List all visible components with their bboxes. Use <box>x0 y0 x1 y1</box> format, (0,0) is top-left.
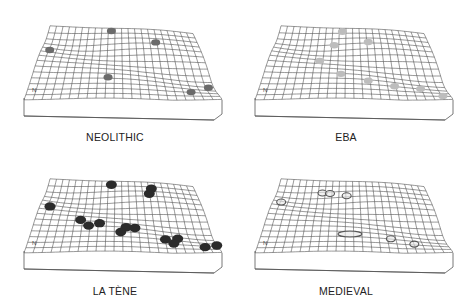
north-arrow-icon: N <box>32 87 36 93</box>
site-marker <box>75 216 86 224</box>
site-marker <box>106 181 117 189</box>
site-marker <box>416 86 425 92</box>
site-marker <box>104 74 113 80</box>
site-marker <box>187 89 196 95</box>
terrain-block-medieval: N <box>231 153 461 283</box>
terrain-block-eba: N <box>231 0 461 130</box>
panel-eba: N EBA <box>231 0 461 153</box>
terrain-block-la-tene: N <box>0 153 230 283</box>
panel-label-neolithic: NEOLITHIC <box>0 131 230 143</box>
site-marker <box>45 47 54 53</box>
site-marker <box>200 243 211 251</box>
terrain-block-neolithic: N <box>0 0 230 130</box>
site-marker <box>315 58 324 64</box>
site-marker <box>168 239 179 247</box>
site-marker <box>211 241 222 249</box>
panel-la-tene: N LA TÈNE <box>0 153 230 306</box>
site-marker <box>336 71 345 77</box>
site-marker <box>364 77 373 83</box>
site-marker <box>342 193 351 199</box>
north-arrow-icon: N <box>263 87 267 93</box>
wireframe-grid <box>255 179 453 253</box>
panel-medieval: N MEDIEVAL <box>231 153 461 306</box>
north-arrow-icon: N <box>263 240 267 246</box>
site-marker <box>338 29 347 35</box>
north-arrow-icon: N <box>32 240 36 246</box>
site-marker <box>338 231 362 237</box>
panel-neolithic: N NEOLITHIC <box>0 0 230 153</box>
site-marker <box>151 39 160 45</box>
site-marker <box>364 39 373 45</box>
wireframe-grid <box>24 179 222 253</box>
site-marker <box>129 224 140 232</box>
site-marker <box>115 228 126 236</box>
panel-label-la-tene: LA TÈNE <box>0 285 230 297</box>
site-marker <box>330 42 339 48</box>
site-marker <box>325 190 334 196</box>
site-marker <box>144 190 155 198</box>
site-marker <box>390 83 399 89</box>
site-marker <box>44 202 55 210</box>
site-marker <box>204 84 213 90</box>
panel-label-eba: EBA <box>231 131 461 143</box>
panel-label-medieval: MEDIEVAL <box>231 285 461 297</box>
site-marker <box>438 93 447 99</box>
site-marker <box>83 221 94 229</box>
site-marker <box>94 219 105 227</box>
site-marker <box>107 28 116 34</box>
site-marker <box>277 199 286 205</box>
site-marker <box>386 236 395 242</box>
site-marker <box>410 241 419 247</box>
